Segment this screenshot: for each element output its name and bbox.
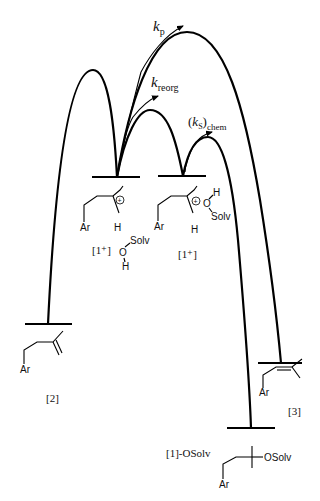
barrier-2-to-ion xyxy=(48,70,117,324)
svg-text:[1⁺]: [1⁺] xyxy=(178,248,197,260)
barrier-kreorg xyxy=(117,110,183,177)
structure-alkene-3: Ar [3] xyxy=(259,359,302,417)
svg-text:Ar: Ar xyxy=(259,387,270,398)
svg-text:+: + xyxy=(118,197,122,204)
svg-text:OSolv: OSolv xyxy=(264,452,291,463)
svg-text:Solv: Solv xyxy=(130,235,149,246)
svg-text:[1⁺]: [1⁺] xyxy=(92,244,111,256)
structure-ion-right: + Ar H O H Solv [1⁺] xyxy=(154,186,230,260)
svg-text:Ar: Ar xyxy=(20,364,31,375)
svg-text:O: O xyxy=(119,247,127,258)
structure-alkene-2: Ar [2] xyxy=(20,331,63,404)
svg-text:[3]: [3] xyxy=(288,405,301,417)
barrier-ks-chem xyxy=(183,137,251,428)
svg-text:O: O xyxy=(203,198,211,209)
svg-text:Ar: Ar xyxy=(219,479,230,490)
svg-text:Solv: Solv xyxy=(211,211,230,222)
svg-text:H: H xyxy=(122,261,129,272)
svg-text:H: H xyxy=(191,224,198,235)
svg-text:[2]: [2] xyxy=(46,392,59,404)
structure-ether: OSolv Ar [1]-OSolv xyxy=(166,446,291,490)
structure-ion-left: + Ar H [1⁺] O Solv H xyxy=(80,186,149,272)
svg-text:[1]-OSolv: [1]-OSolv xyxy=(166,447,211,459)
arrow-kreorg xyxy=(133,96,158,117)
svg-text:Ar: Ar xyxy=(154,221,165,232)
svg-text:+: + xyxy=(194,198,198,205)
label-kp: kp xyxy=(153,18,165,37)
barrier-kp xyxy=(117,32,281,363)
svg-text:H: H xyxy=(114,222,121,233)
svg-text:H: H xyxy=(213,187,220,198)
energy-diagram: kp kreorg (kS)chem + Ar H [1⁺] O Solv H … xyxy=(0,0,320,501)
svg-text:Ar: Ar xyxy=(80,222,91,233)
label-kreorg: kreorg xyxy=(151,74,179,93)
label-ks-chem: (kS)chem xyxy=(188,114,226,132)
